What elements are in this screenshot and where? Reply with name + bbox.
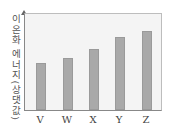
bar-y [115,37,125,110]
x-tick-x: X [85,114,101,125]
x-tick-v: V [32,114,48,125]
y-axis-label: 이온화 에너지(상댓값) [8,14,22,100]
x-tick-z: Z [138,114,154,125]
bar-w [63,58,73,110]
bar-x [89,49,99,110]
bar-v [36,63,46,110]
x-tick-w: W [59,114,75,125]
x-tick-y: Y [111,114,127,125]
plot-area [24,13,162,111]
bar-z [142,31,152,110]
